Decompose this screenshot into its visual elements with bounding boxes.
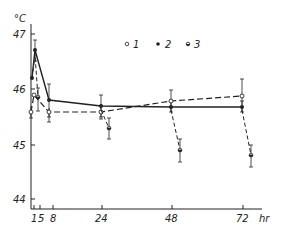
series-1-line	[31, 95, 242, 112]
series-3	[32, 55, 253, 167]
series-3-markers	[36, 95, 253, 157]
legend-item-3: 3	[186, 39, 200, 50]
series-1	[29, 79, 244, 122]
chart: °C 47 46 45 44 1 5 8 24 48 72 hr	[0, 0, 285, 233]
x-tick-label-1: 1	[31, 213, 37, 224]
y-unit-label: °C	[14, 13, 26, 24]
x-tick-label-72: 72	[236, 213, 249, 224]
open-circle-icon	[125, 42, 129, 46]
x-tick-label-5: 5	[38, 213, 44, 224]
x-unit-label: hr	[259, 213, 270, 224]
legend-label-3: 3	[194, 39, 200, 50]
x-tick-label-24: 24	[95, 213, 108, 224]
series-3-lines	[32, 55, 251, 155]
y-tick-label-45: 45	[13, 140, 26, 151]
series-1-markers	[29, 93, 244, 114]
series-1-error-bars	[29, 79, 244, 122]
y-tick-label-46: 46	[13, 84, 26, 95]
legend: 1 2 3	[125, 39, 200, 50]
y-tick-label-44: 44	[13, 194, 26, 205]
series-2-markers	[30, 48, 244, 109]
series-3-error-bars	[36, 88, 253, 167]
x-tick-label-48: 48	[165, 213, 178, 224]
axes	[31, 24, 262, 209]
series-2	[30, 40, 244, 117]
legend-item-1: 1	[125, 39, 139, 50]
x-tick-label-8: 8	[50, 213, 56, 224]
legend-label-2: 2	[165, 39, 171, 50]
legend-item-2: 2	[156, 39, 171, 50]
series-2-error-bars	[33, 40, 244, 117]
filled-circle-icon	[156, 42, 160, 46]
legend-label-1: 1	[133, 39, 139, 50]
y-tick-label-47: 47	[13, 29, 26, 40]
